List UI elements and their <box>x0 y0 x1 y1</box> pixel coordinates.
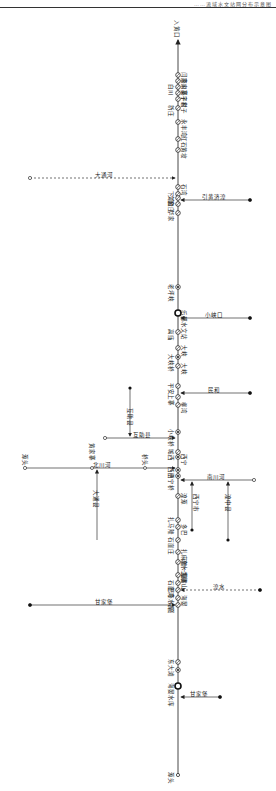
source-dot-icon <box>128 386 131 389</box>
river-network-diagram: 入黄口 大通河引黄济湟小峡口民和互助县互助县北川河黄家寨桥头源头大通县南川河湟中… <box>0 0 276 791</box>
station-center-dot-icon <box>177 286 179 288</box>
station-label: 东大滩 <box>167 659 175 677</box>
station-label: 老坪峡 <box>167 284 175 302</box>
station-label: 黄坡 <box>180 147 188 159</box>
tributary-label: 甘家堡 <box>95 598 113 606</box>
hydro-station-main-icon[interactable] <box>175 310 181 316</box>
source-label: 源头 <box>21 454 29 466</box>
station-center-dot-icon <box>177 475 179 477</box>
station-label: 海晏水库 <box>167 683 175 707</box>
source-dot-icon <box>248 198 251 201</box>
tributary-label: 北川河 <box>93 461 111 469</box>
branch-label: 大通县 <box>92 490 100 508</box>
station-label: 上寨 <box>168 394 175 406</box>
station-label: 永丰湾 <box>180 119 188 137</box>
tributary-label: 引黄济湟 <box>202 193 226 201</box>
hydro-station-main-icon[interactable] <box>175 683 181 689</box>
hydro-station-icon[interactable] <box>176 773 179 776</box>
station-label: 石崖庄 <box>167 537 175 555</box>
station-label: 海晏 <box>180 595 188 607</box>
station-label: 黄家寨 <box>88 443 96 461</box>
station-label: 源头 <box>167 772 175 784</box>
station-label: 石湾 <box>180 184 188 196</box>
source-dot-icon <box>190 528 193 531</box>
branch-label: 西宁市 <box>192 494 200 512</box>
source-dot-icon <box>258 588 261 591</box>
station-open-icon <box>144 467 147 470</box>
tributary-label: 小峡口 <box>205 311 223 319</box>
station-label: 大峡 <box>180 345 188 357</box>
station-open-icon <box>91 467 94 470</box>
station-label: 小峡桥 <box>167 429 175 447</box>
source-open-icon <box>103 436 106 439</box>
station-label: 白川 <box>167 84 175 96</box>
station-label: 桥头 <box>141 454 149 466</box>
source-dot-icon <box>248 391 251 394</box>
station-center-dot-icon <box>177 431 179 433</box>
station-label: 宇家子 <box>181 96 188 114</box>
station-label: 新庄 <box>167 105 175 117</box>
source-open-icon <box>28 176 31 179</box>
station-center-dot-icon <box>177 469 179 471</box>
station-center-dot-icon <box>177 456 179 458</box>
station-label: 高庙 <box>167 329 175 341</box>
river-mouth-label: 入黄口 <box>173 20 181 38</box>
source-dot-icon <box>28 603 31 606</box>
station-label: 西宁 <box>180 454 188 466</box>
station-label: 扎马隆 <box>167 517 175 535</box>
station-label: 乐都水文站 <box>180 310 188 340</box>
source-dot-icon <box>248 316 251 319</box>
tributary-label: 互助县 <box>133 431 151 439</box>
source-dot-icon <box>218 695 221 698</box>
station-label: 大峡桥 <box>167 354 175 372</box>
station-label: 西宁桥 <box>167 473 175 491</box>
station-label: 多巴 <box>180 524 188 536</box>
branch-label: 互助县 <box>126 408 134 426</box>
branch-label: 湟中县 <box>224 494 232 512</box>
station-label: 黑嘴山 <box>180 572 188 590</box>
station-label: 华家 <box>167 210 175 222</box>
stations: 闫家川燕家寨白川吴子村宇家子新庄永丰湾红石黄坡石湾下湾文和金庄华家老坪峡乐都水文… <box>167 72 188 784</box>
station-label: 湟源 <box>180 493 188 505</box>
tributaries: 大通河引黄济湟小峡口民和互助县互助县北川河黄家寨桥头源头大通县南川河湟中县西宁市… <box>21 171 262 699</box>
station-label: 大峡 <box>180 363 188 375</box>
station-label: 城西 <box>167 449 174 461</box>
station-label: 克图 <box>167 602 175 614</box>
tributary-label: 南川河 <box>207 473 225 480</box>
tributary-label: 大通河 <box>95 171 113 179</box>
station-label: 柳湾 <box>180 402 188 414</box>
tributary-label: 湟水 <box>213 583 225 591</box>
station-center-dot-icon <box>177 669 179 671</box>
station-center-dot-icon <box>177 356 179 358</box>
source-dot-icon <box>226 538 229 541</box>
source-open-icon <box>252 478 255 481</box>
source-open-icon <box>23 466 26 469</box>
tributary-label: 甘家堡 <box>190 690 208 698</box>
tributary-label: 民和 <box>208 386 220 394</box>
